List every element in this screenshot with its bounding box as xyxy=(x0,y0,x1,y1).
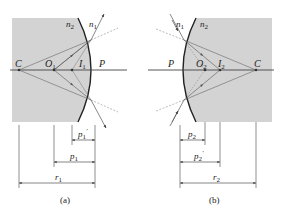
label-r1: r1 xyxy=(55,172,63,184)
label-n1-a: n1 xyxy=(89,19,98,31)
label-p2: p2 xyxy=(187,129,197,141)
label-c-a: C xyxy=(15,58,22,69)
point-i1 xyxy=(71,69,74,72)
label-p1-prime: p1′ xyxy=(77,127,88,141)
label-p-b: P xyxy=(167,58,174,69)
label-r2: r2 xyxy=(213,172,221,184)
label-p2-prime: p2′ xyxy=(193,149,204,163)
point-c-a xyxy=(18,69,21,72)
label-p1: p1 xyxy=(69,151,79,163)
label-c-b: C xyxy=(254,58,261,69)
caption-b: (b) xyxy=(209,195,220,205)
refraction-diagram: n2 n1 C O1 I1 P p1′ p1 r1 (a) xyxy=(0,0,283,218)
caption-a: (a) xyxy=(60,195,70,205)
label-p-a: P xyxy=(98,58,105,69)
panel-b: n1 n2 P O2 I2 C p2 p2′ r2 (b) xyxy=(148,14,274,205)
panel-a: n2 n1 C O1 I1 P p1′ p1 r1 (a) xyxy=(10,14,127,205)
point-c-b xyxy=(255,69,258,72)
